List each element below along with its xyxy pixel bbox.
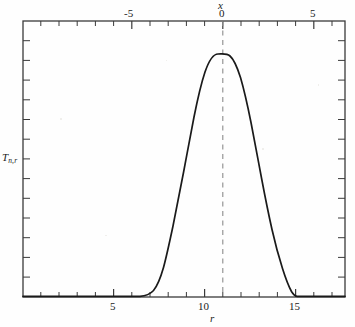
bell-curve-path	[23, 54, 345, 296]
scan-speck	[262, 148, 264, 150]
bottom-axis-title: r	[210, 313, 214, 324]
y-axis-label: Tn,r	[2, 152, 17, 164]
right-axis-ticks	[338, 41, 345, 277]
y-axis-label-subscript: n,r	[8, 156, 17, 165]
scan-speck	[60, 118, 62, 120]
plot-svg	[0, 0, 355, 327]
plot-frame	[23, 21, 345, 297]
bottom-axis-tick-label-5: 5	[110, 301, 116, 312]
top-axis-ticks	[41, 21, 332, 29]
scan-speck	[105, 235, 107, 236]
figure-container: x -5 0 5 5 10 15 r Tn,r	[0, 0, 355, 327]
scan-speck	[318, 84, 319, 86]
top-axis-tick-label-5: 5	[310, 8, 316, 19]
bottom-axis-tick-label-15: 15	[289, 301, 300, 312]
top-axis-tick-label-neg5: -5	[124, 8, 133, 19]
scan-speck	[166, 60, 167, 61]
left-axis-ticks	[23, 41, 30, 277]
bottom-axis-tick-label-10: 10	[198, 301, 209, 312]
top-axis-tick-label-0: 0	[219, 8, 225, 19]
